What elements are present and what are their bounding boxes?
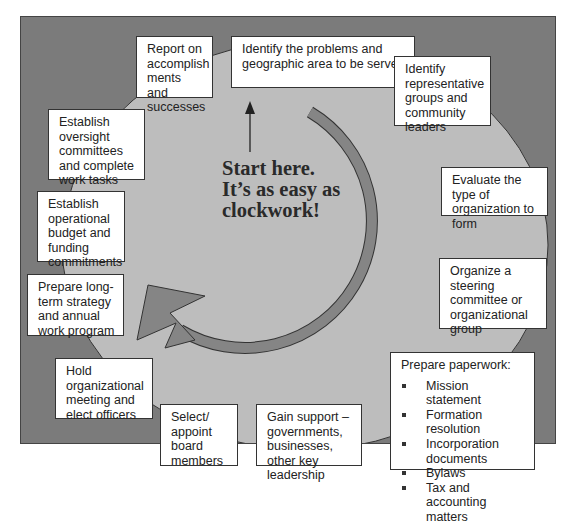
paperwork-item: Mission statement bbox=[401, 379, 526, 408]
center-caption: Start here. It’s as easy as clockwork! bbox=[222, 158, 340, 221]
step-hold-meeting: Hold organizational meeting and elect of… bbox=[55, 358, 153, 419]
caption-line-1: Start here. bbox=[222, 158, 340, 179]
paperwork-item: Formation resolution bbox=[401, 408, 526, 437]
caption-line-3: clockwork! bbox=[222, 200, 340, 221]
step-identify-groups: Identify representative groups and commu… bbox=[394, 56, 491, 126]
paperwork-item: Tax and accounting matters bbox=[401, 481, 526, 525]
paperwork-heading: Prepare paperwork: bbox=[401, 358, 526, 373]
step-prepare-strategy: Prepare long-term strategy and annual wo… bbox=[27, 274, 124, 336]
caption-line-2: It’s as easy as bbox=[222, 179, 340, 200]
step-select-board: Select/ appoint board members bbox=[160, 404, 238, 466]
paperwork-item: Incorporation documents bbox=[401, 437, 526, 466]
step-identify-problems: Identify the problems and geographic are… bbox=[231, 36, 415, 88]
step-establish-budget: Establish operational budget and funding… bbox=[37, 191, 125, 262]
step-prepare-paperwork: Prepare paperwork: Mission statement For… bbox=[390, 352, 535, 470]
paperwork-item: Bylaws bbox=[401, 466, 526, 481]
step-evaluate-organization: Evaluate the type of organization to for… bbox=[441, 167, 548, 216]
step-organize-committee: Organize a steering committee or organiz… bbox=[439, 258, 547, 329]
step-gain-support: Gain support – governments, businesses, … bbox=[256, 404, 362, 466]
paperwork-list: Mission statement Formation resolution I… bbox=[401, 379, 526, 525]
step-report-accomplishments: Report on accomplish ments and successes bbox=[136, 36, 213, 98]
step-establish-oversight: Establish oversight committees and compl… bbox=[48, 109, 145, 180]
